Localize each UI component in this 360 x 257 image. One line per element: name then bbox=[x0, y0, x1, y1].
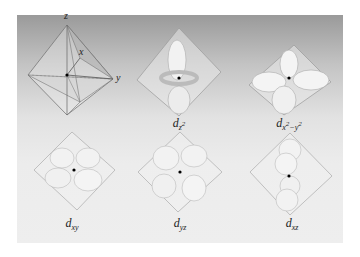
orbital-dyz: dyz bbox=[130, 130, 230, 240]
x-axis-label: x bbox=[79, 46, 83, 57]
orbital-dx2-y2: dx2−y2 bbox=[239, 20, 339, 130]
orbital-label-dxz: dxz bbox=[242, 216, 342, 232]
orbital-dz2: dz2 bbox=[129, 20, 229, 130]
z-axis-label: z bbox=[64, 10, 68, 21]
y-axis-label: y bbox=[116, 72, 120, 83]
orbital-label-dyz: dyz bbox=[130, 216, 230, 232]
figure-panel: z x y dz2 dx2−y2 bbox=[17, 15, 343, 243]
orbital-dxy: dxy bbox=[22, 130, 122, 240]
orbital-label-dxy: dxy bbox=[22, 216, 122, 232]
octahedron-axes: z x y bbox=[20, 18, 120, 128]
orbital-dxz: dxz bbox=[242, 130, 342, 240]
